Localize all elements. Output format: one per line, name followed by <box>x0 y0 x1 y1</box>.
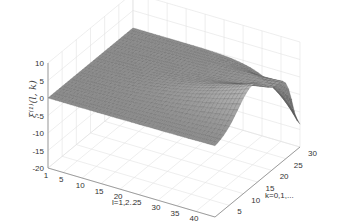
svg-text:30: 30 <box>308 149 317 158</box>
svg-text:-10: -10 <box>32 129 44 138</box>
svg-text:10: 10 <box>76 181 85 190</box>
y-axis-label: k=0,1,... <box>265 191 294 200</box>
svg-text:0: 0 <box>223 219 228 221</box>
svg-text:5: 5 <box>59 175 64 184</box>
svg-text:30: 30 <box>152 203 161 212</box>
svg-text:15: 15 <box>95 187 104 196</box>
svg-text:10: 10 <box>35 59 44 68</box>
surface-plot: 1050-5-10-15-201510152025303540450510152… <box>0 0 353 221</box>
svg-text:5: 5 <box>40 77 45 86</box>
svg-text:20: 20 <box>280 172 289 181</box>
svg-text:-5: -5 <box>37 112 45 121</box>
svg-text:40: 40 <box>190 214 199 221</box>
svg-text:-20: -20 <box>32 164 44 173</box>
x-axis-label: l=1,2... <box>112 198 136 207</box>
svg-text:35: 35 <box>171 209 180 218</box>
svg-text:25: 25 <box>294 161 303 170</box>
svg-text:10: 10 <box>251 196 260 205</box>
svg-text:0: 0 <box>40 94 45 103</box>
svg-text:5: 5 <box>237 207 242 216</box>
svg-text:-15: -15 <box>32 147 44 156</box>
svg-text:1: 1 <box>44 171 49 180</box>
svg-text:45: 45 <box>209 220 218 221</box>
z-axis-label: ξ⁽¹⁾(l, k) <box>27 80 38 118</box>
